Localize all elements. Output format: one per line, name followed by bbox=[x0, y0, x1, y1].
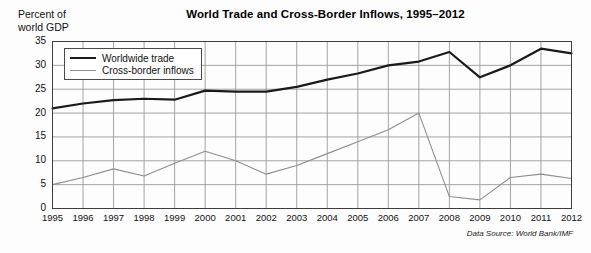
legend-item-cross-border-inflows: Cross-border inflows bbox=[70, 64, 194, 76]
x-tick-label: 2002 bbox=[249, 212, 283, 223]
legend-swatch-worldwide-trade bbox=[70, 57, 96, 59]
y-tick-label: 15 bbox=[20, 130, 46, 141]
legend-item-worldwide-trade: Worldwide trade bbox=[70, 52, 194, 64]
x-tick-label: 2000 bbox=[188, 212, 222, 223]
data-source-note: Data Source: World Bank/IMF bbox=[467, 229, 573, 238]
x-tick-label: 2003 bbox=[280, 212, 314, 223]
chart-legend: Worldwide trade Cross-border inflows bbox=[64, 48, 202, 80]
x-tick-label: 2001 bbox=[219, 212, 253, 223]
x-tick-label: 1996 bbox=[66, 212, 100, 223]
y-tick-label: 25 bbox=[20, 83, 46, 94]
x-tick-label: 2006 bbox=[371, 212, 405, 223]
y-tick-label: 10 bbox=[20, 154, 46, 165]
series-line-cross-border-inflows bbox=[53, 113, 572, 200]
x-tick-label: 1998 bbox=[127, 212, 161, 223]
x-tick-label: 2005 bbox=[341, 212, 375, 223]
y-tick-label: 35 bbox=[20, 35, 46, 46]
x-tick-label: 2007 bbox=[402, 212, 436, 223]
legend-label-worldwide-trade: Worldwide trade bbox=[102, 53, 174, 64]
x-tick-label: 1997 bbox=[97, 212, 131, 223]
x-tick-label: 2010 bbox=[493, 212, 527, 223]
x-tick-label: 1995 bbox=[36, 212, 70, 223]
legend-swatch-cross-border-inflows bbox=[70, 70, 96, 71]
y-tick-label: 20 bbox=[20, 107, 46, 118]
x-tick-label: 2004 bbox=[310, 212, 344, 223]
x-tick-label: 2012 bbox=[555, 212, 589, 223]
x-tick-label: 2009 bbox=[463, 212, 497, 223]
y-tick-label: 5 bbox=[20, 178, 46, 189]
x-tick-label: 2008 bbox=[432, 212, 466, 223]
chart-figure: Percent of world GDP World Trade and Cro… bbox=[0, 0, 591, 253]
y-tick-label: 30 bbox=[20, 59, 46, 70]
x-tick-label: 2011 bbox=[524, 212, 558, 223]
x-tick-label: 1999 bbox=[158, 212, 192, 223]
legend-label-cross-border-inflows: Cross-border inflows bbox=[102, 65, 194, 76]
